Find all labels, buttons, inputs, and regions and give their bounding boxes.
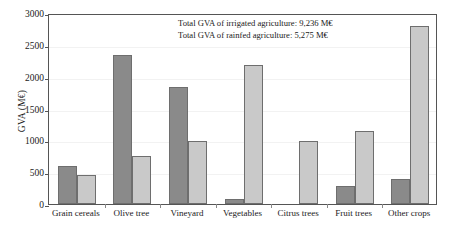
bar — [336, 186, 355, 204]
x-axis-label: Other crops — [388, 208, 430, 219]
bar — [188, 141, 207, 204]
y-tick-mark — [45, 79, 49, 80]
chart-annotation: Total GVA of irrigated agriculture: 9,23… — [178, 18, 333, 41]
annotation-line-rainfed: Total GVA of rainfed agriculture: 5,275 … — [178, 30, 333, 42]
y-tick-label: 0 — [0, 200, 44, 210]
y-tick-label: 500 — [0, 168, 44, 178]
y-tick-mark — [45, 142, 49, 143]
y-tick-mark — [45, 174, 49, 175]
x-axis-label: Citrus trees — [277, 208, 318, 219]
y-tick-label: 2500 — [0, 41, 44, 51]
bar — [169, 87, 188, 204]
y-tick-mark — [45, 206, 49, 207]
y-axis-tick-labels: 050010001500200025003000 — [0, 0, 44, 234]
y-tick-label: 3000 — [0, 9, 44, 19]
y-tick-mark — [45, 15, 49, 16]
bar — [244, 65, 263, 204]
x-axis-label: Vineyard — [170, 208, 203, 219]
x-axis-label: Grain cereals — [52, 208, 100, 219]
bar — [58, 166, 77, 204]
y-tick-mark — [45, 111, 49, 112]
bar — [410, 26, 429, 204]
bar — [355, 131, 374, 204]
y-tick-label: 1500 — [0, 105, 44, 115]
bar — [299, 141, 318, 204]
y-tick-label: 2000 — [0, 73, 44, 83]
bar — [77, 175, 96, 204]
y-tick-mark — [45, 47, 49, 48]
bar — [225, 199, 244, 204]
x-axis-category-labels: Grain cerealsOlive treeVineyardVegetable… — [48, 208, 437, 228]
y-tick-label: 1000 — [0, 136, 44, 146]
bar — [132, 156, 151, 204]
x-axis-label: Olive tree — [113, 208, 149, 219]
bar — [113, 55, 132, 204]
bar — [391, 179, 410, 204]
x-axis-label: Fruit trees — [335, 208, 372, 219]
plot-area — [48, 14, 437, 205]
bar-chart: GVA (M€) 050010001500200025003000 Total … — [0, 0, 454, 234]
annotation-line-irrigated: Total GVA of irrigated agriculture: 9,23… — [178, 18, 333, 30]
x-axis-label: Vegetables — [223, 208, 262, 219]
bars-layer — [49, 15, 436, 204]
